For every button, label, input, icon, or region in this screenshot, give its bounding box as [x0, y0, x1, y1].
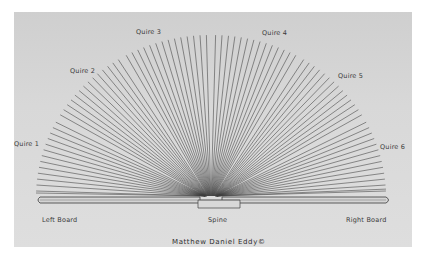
leaf-line: [215, 70, 320, 196]
quire-3-label: Quire 3: [136, 28, 161, 36]
leaf-lines: [36, 35, 386, 196]
leaf-line: [71, 100, 206, 196]
quire-5-label: Quire 5: [338, 72, 363, 80]
leaf-line: [102, 70, 207, 196]
leaf-line: [216, 100, 351, 196]
quire-1-label: Quire 1: [14, 140, 39, 148]
right-board-label: Right Board: [346, 216, 387, 224]
leaf-line: [83, 86, 206, 196]
leaf-line: [206, 35, 210, 196]
leaf-line: [216, 110, 358, 196]
left-board-label: Left Board: [42, 216, 77, 224]
quire-6-label: Quire 6: [380, 143, 405, 151]
leaf-line: [64, 110, 206, 196]
spine-block: [198, 200, 240, 208]
spine-label: Spine: [208, 216, 227, 224]
leaf-line: [215, 86, 338, 196]
leaf-line: [217, 133, 372, 196]
author-credit: Matthew Daniel Eddy©: [172, 238, 266, 246]
leaf-line: [214, 63, 309, 196]
quire-4-label: Quire 4: [262, 29, 287, 37]
quire-2-label: Quire 2: [70, 67, 95, 75]
leaf-line: [50, 133, 205, 196]
leaf-line: [113, 63, 208, 196]
leaf-line: [211, 35, 215, 196]
